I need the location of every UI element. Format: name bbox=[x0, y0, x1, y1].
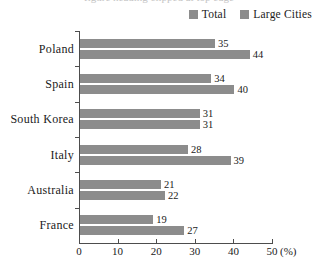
bar-value-label: 31 bbox=[203, 120, 214, 131]
bar-value-label: 27 bbox=[187, 226, 198, 237]
x-axis-tick-label: 30 bbox=[189, 246, 200, 257]
legend-item: Total bbox=[189, 9, 226, 21]
x-axis-tick bbox=[118, 239, 119, 244]
bar-value-label: 28 bbox=[191, 145, 202, 156]
x-axis-tick-label: 40 bbox=[228, 246, 239, 257]
bar-value-label: 19 bbox=[156, 215, 167, 226]
bar-value-label: 44 bbox=[253, 50, 264, 61]
x-axis-unit-label: (%) bbox=[280, 246, 297, 257]
legend-label: Total bbox=[202, 9, 226, 21]
category-label: France bbox=[40, 219, 74, 231]
bar bbox=[80, 180, 161, 189]
y-axis-tick bbox=[75, 208, 79, 209]
category-label: Poland bbox=[39, 43, 74, 55]
legend-label: Large Cities bbox=[253, 9, 312, 21]
plot-area: 01020304050(%)354434403131283921221927 bbox=[79, 31, 272, 243]
x-axis-tick bbox=[233, 239, 234, 244]
clipped-title-rule: figure heading clipped at top edge bbox=[0, 0, 318, 3]
y-axis-tick bbox=[75, 31, 79, 32]
x-axis-tick-label: 10 bbox=[112, 246, 123, 257]
y-axis-tick bbox=[75, 66, 79, 67]
x-axis-tick-label: 50 bbox=[267, 246, 278, 257]
y-axis-line bbox=[79, 31, 80, 243]
bar bbox=[80, 109, 200, 118]
x-axis-tick bbox=[156, 239, 157, 244]
legend-item: Large Cities bbox=[240, 9, 312, 21]
category-label: Spain bbox=[45, 78, 74, 90]
bar-chart: figure heading clipped at top edge Total… bbox=[0, 0, 318, 269]
x-axis-tick-label: 0 bbox=[76, 246, 82, 257]
category-label-column: PolandSpainSouth KoreaItalyAustraliaFran… bbox=[0, 31, 74, 243]
bar bbox=[80, 85, 234, 94]
y-axis-tick bbox=[75, 172, 79, 173]
bar-value-label: 31 bbox=[203, 109, 214, 120]
category-label: South Korea bbox=[10, 113, 74, 125]
x-axis-tick bbox=[195, 239, 196, 244]
bar bbox=[80, 39, 215, 48]
bar bbox=[80, 145, 188, 154]
bar bbox=[80, 156, 231, 165]
bar-value-label: 39 bbox=[234, 156, 245, 167]
bar-value-label: 22 bbox=[168, 191, 179, 202]
bar bbox=[80, 74, 211, 83]
x-axis-tick bbox=[272, 239, 273, 244]
category-label: Australia bbox=[27, 184, 74, 196]
y-axis-tick bbox=[75, 102, 79, 103]
bar-value-label: 40 bbox=[237, 85, 248, 96]
bar bbox=[80, 120, 200, 129]
chart-legend: TotalLarge Cities bbox=[189, 9, 312, 21]
bar-value-label: 34 bbox=[214, 74, 225, 85]
square-swatch-icon bbox=[189, 10, 198, 19]
square-swatch-icon bbox=[240, 10, 249, 19]
bar bbox=[80, 215, 153, 224]
bar bbox=[80, 191, 165, 200]
x-axis-line bbox=[79, 243, 272, 244]
y-axis-tick bbox=[75, 137, 79, 138]
bar bbox=[80, 226, 184, 235]
category-label: Italy bbox=[51, 149, 75, 161]
bar bbox=[80, 50, 250, 59]
x-axis-tick bbox=[79, 239, 80, 244]
clipped-title-text: figure heading clipped at top edge bbox=[0, 0, 318, 3]
bar-value-label: 21 bbox=[164, 180, 175, 191]
bar-value-label: 35 bbox=[218, 39, 229, 50]
x-axis-tick-label: 20 bbox=[151, 246, 162, 257]
